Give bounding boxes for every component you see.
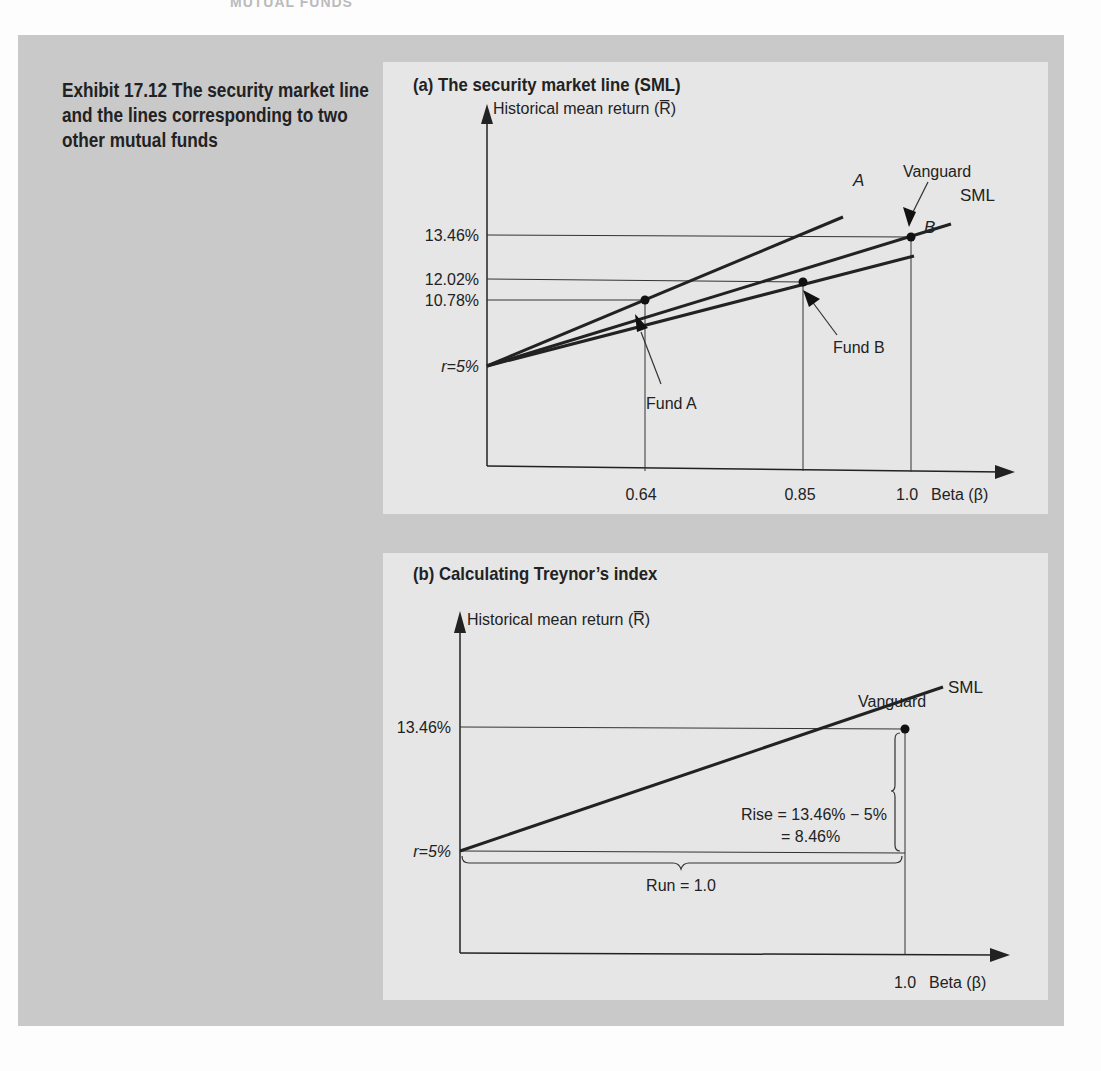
x-axis (487, 466, 1003, 472)
svg-text:Beta (β): Beta (β) (929, 974, 986, 991)
svg-text:0.64: 0.64 (625, 486, 656, 503)
svg-text:SML: SML (960, 186, 995, 205)
panel-a-sml-chart: (a) The security market line (SML) 13.46… (383, 62, 1048, 514)
rise-brace (891, 733, 900, 851)
svg-text:A: A (852, 171, 864, 190)
svg-text:Historical mean return (R̅): Historical mean return (R̅) (467, 611, 650, 628)
svg-text:r=5%: r=5% (413, 843, 451, 860)
svg-text:= 8.46%: = 8.46% (781, 828, 840, 845)
svg-text:13.46%: 13.46% (425, 227, 479, 244)
running-head: MUTUAL FUNDS (230, 0, 353, 10)
svg-text:10.78%: 10.78% (425, 292, 479, 309)
panel-b-treynor-chart: (b) Calculating Treynor’s index 13.46% r… (383, 553, 1048, 1000)
svg-text:13.46%: 13.46% (397, 719, 451, 736)
svg-text:SML: SML (948, 678, 983, 697)
line-a (487, 217, 843, 366)
x-axis (460, 953, 998, 955)
svg-text:0.85: 0.85 (784, 486, 815, 503)
svg-text:12.02%: 12.02% (425, 271, 479, 288)
svg-text:r=5%: r=5% (441, 358, 479, 375)
svg-text:1.0: 1.0 (894, 974, 916, 991)
panel-a-plot: 13.46% 12.02% 10.78% r=5% 0.64 0.85 1.0 … (383, 62, 1048, 514)
ref-12-02 (487, 279, 803, 282)
svg-text:1.0: 1.0 (896, 486, 918, 503)
svg-text:Vanguard: Vanguard (903, 163, 971, 180)
ref-r (460, 851, 905, 853)
fund-b-arrow-icon (803, 290, 820, 307)
point-vanguard (901, 725, 910, 734)
panel-b-plot: 13.46% r=5% 1.0 Beta (β) Historical mean… (383, 553, 1048, 1000)
x-axis-arrow-icon (990, 948, 1010, 962)
line-sml (460, 687, 943, 851)
ref-13-46 (460, 727, 905, 729)
point-fund-b (799, 278, 808, 287)
x-axis-arrow-icon (995, 465, 1015, 479)
point-vanguard (907, 233, 916, 242)
svg-text:Rise = 13.46% − 5%: Rise = 13.46% − 5% (741, 806, 887, 823)
svg-text:Historical mean return (R̅): Historical mean return (R̅) (493, 100, 676, 117)
y-axis-arrow-icon (481, 104, 493, 124)
svg-text:Vanguard: Vanguard (858, 693, 926, 710)
svg-text:B: B (924, 218, 935, 237)
run-brace (462, 856, 902, 869)
svg-text:Beta (β): Beta (β) (931, 486, 988, 503)
svg-text:Run = 1.0: Run = 1.0 (646, 877, 716, 894)
y-axis-arrow-icon (454, 611, 466, 633)
ref-13-46 (487, 235, 911, 237)
point-fund-a (641, 296, 650, 305)
svg-text:Fund A: Fund A (646, 395, 697, 412)
svg-text:Fund B: Fund B (833, 339, 885, 356)
exhibit-caption: Exhibit 17.12 The security market line a… (62, 78, 372, 153)
